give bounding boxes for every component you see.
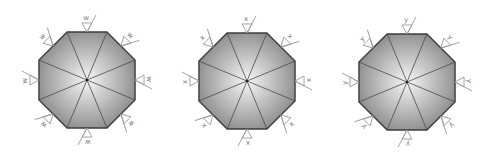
center-point — [86, 79, 88, 81]
surface-finish-symbol: x — [238, 129, 252, 147]
finish-letter: x — [305, 78, 313, 82]
surface-finish-symbol: y — [341, 73, 359, 87]
surface-finish-symbol: y — [455, 77, 473, 91]
finish-letter: x — [244, 15, 248, 23]
finish-triangle-icon — [30, 75, 39, 85]
finish-letter: w — [85, 138, 91, 146]
finish-letter: x — [246, 139, 250, 147]
finish-triangle-icon — [82, 23, 92, 32]
finish-letter: y — [465, 79, 473, 83]
finish-letter: y — [406, 140, 410, 148]
finish-triangle-icon — [455, 77, 464, 87]
finish-triangle-icon — [350, 77, 359, 87]
finish-letter: y — [404, 16, 408, 24]
finish-tick-line — [295, 81, 312, 90]
finish-letter: x — [286, 32, 295, 41]
surface-finish-symbol: w — [135, 75, 153, 89]
center-point — [406, 81, 408, 83]
finish-letter: y — [446, 33, 455, 42]
surface-finish-symbol: w — [78, 128, 92, 146]
surface-finish-symbol: y — [402, 16, 416, 34]
finish-tick-line — [398, 130, 407, 147]
finish-tick-line — [407, 17, 416, 34]
surface-finish-symbol: x — [295, 76, 313, 90]
finish-tick-line — [247, 16, 256, 33]
octagon-w: wwwwwwww — [21, 14, 153, 146]
finish-tick-line — [455, 82, 472, 91]
finish-triangle-icon — [242, 129, 252, 138]
finish-letter: y — [360, 122, 369, 131]
center-point — [246, 80, 248, 82]
octagon-x: xxxxxxxx — [181, 15, 313, 147]
finish-triangle-icon — [402, 130, 412, 139]
finish-tick-line — [182, 72, 199, 81]
finish-letter: w — [83, 14, 89, 22]
finish-triangle-icon — [190, 76, 199, 86]
finish-triangle-icon — [402, 25, 412, 34]
surface-finish-symbol: x — [242, 15, 256, 33]
octagon-y: yyyyyyyy — [341, 16, 473, 148]
finish-letter: y — [341, 81, 349, 85]
finish-letter: x — [287, 120, 296, 129]
finish-tick-line — [238, 129, 247, 146]
surface-finish-symbol: w — [82, 14, 96, 32]
finish-triangle-icon — [82, 128, 92, 137]
surface-finish-symbol: x — [181, 72, 199, 86]
finish-triangle-icon — [242, 24, 252, 33]
finish-letter: w — [145, 76, 153, 82]
finish-triangle-icon — [295, 76, 304, 86]
diagram-canvas: wwwwwwwwxxxxxxxxyyyyyyyy — [0, 0, 492, 164]
finish-letter: x — [181, 80, 189, 84]
finish-triangle-icon — [135, 75, 144, 85]
finish-letter: x — [198, 34, 207, 43]
octagon-diagram: wwwwwwwwxxxxxxxxyyyyyyyy — [0, 0, 492, 164]
finish-letter: y — [358, 35, 367, 44]
surface-finish-symbol: w — [21, 71, 39, 85]
finish-letter: x — [200, 121, 209, 130]
finish-tick-line — [342, 73, 359, 82]
finish-letter: w — [21, 78, 29, 84]
surface-finish-symbol: y — [398, 130, 412, 148]
finish-letter: y — [447, 121, 456, 130]
